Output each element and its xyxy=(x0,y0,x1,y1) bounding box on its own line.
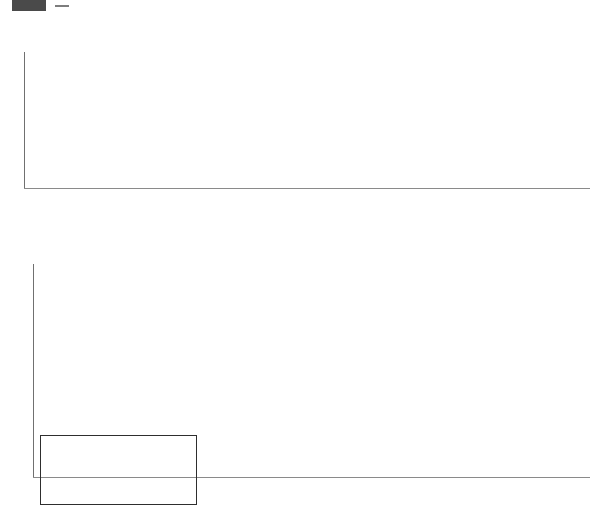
header-dash-rule xyxy=(55,5,69,7)
chart-top-y-axis-line xyxy=(24,52,25,188)
header-swatch-block xyxy=(12,0,46,11)
chart-top-x-axis-line xyxy=(24,188,590,189)
chart-bottom-y-axis-line xyxy=(33,264,34,477)
figure-page xyxy=(0,0,595,527)
chart-bottom-inset-callout-box xyxy=(40,435,197,505)
